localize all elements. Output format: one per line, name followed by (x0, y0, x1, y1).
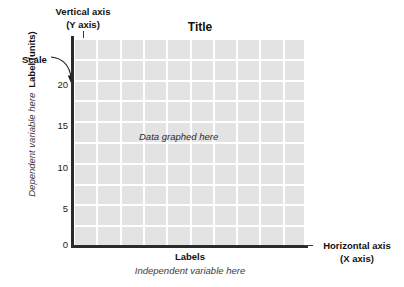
y-tick-label: 5 (46, 204, 68, 214)
y-axis-label-units: Label (units) (26, 31, 37, 87)
y-axis-tick-labels: 20 15 10 5 0 (40, 0, 68, 287)
horizontal-axis-annotation-line1: Horizontal axis (311, 240, 403, 253)
plot-area (73, 38, 306, 246)
horizontal-axis-annotation: Horizontal axis (X axis) (311, 240, 403, 265)
horizontal-axis-annotation-line2: (X axis) (311, 253, 403, 266)
x-axis-labels-title: Labels (130, 251, 250, 262)
graph-anatomy-diagram: Vertical axis (Y axis) Title Scale Depen… (0, 0, 404, 287)
y-axis-label-description: Dependent variable here (26, 93, 37, 197)
y-axis-line (71, 36, 74, 247)
y-tick-label: 20 (46, 80, 68, 90)
data-graphed-here-label: Data graphed here (139, 131, 218, 142)
x-axis-label-description: Independent variable here (120, 265, 260, 276)
chart-title: Title (140, 20, 260, 34)
y-tick-label: 15 (46, 121, 68, 131)
y-tick-label: 10 (46, 163, 68, 173)
plot-gridlines (73, 38, 306, 246)
x-axis-line (71, 245, 308, 248)
y-tick-label: 0 (46, 240, 68, 250)
